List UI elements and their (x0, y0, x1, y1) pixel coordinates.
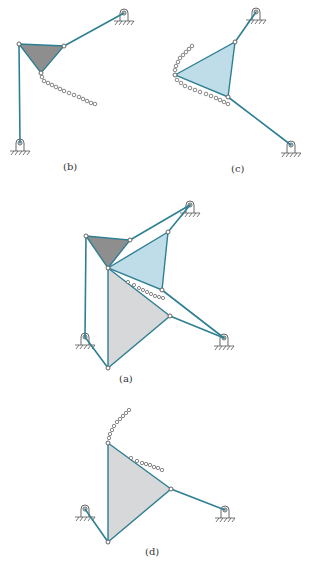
ground-support-icon (281, 141, 301, 157)
coupler-triangle-dark (19, 44, 64, 73)
ground-support-icon (214, 334, 234, 350)
panel-c (173, 8, 301, 157)
coupler-triangle-blue (175, 42, 235, 97)
link (85, 236, 86, 337)
panel-label-c: (c) (231, 163, 244, 174)
panel-label-b: (b) (63, 161, 77, 172)
panel-a (75, 201, 234, 370)
link (228, 97, 291, 145)
link (19, 44, 20, 143)
link (85, 509, 108, 542)
panel-label-a: (a) (119, 373, 133, 384)
panel-d (75, 408, 235, 544)
coupler-curve (40, 75, 97, 106)
link (170, 316, 224, 338)
link (171, 489, 225, 510)
link (64, 13, 124, 46)
link (130, 205, 190, 240)
linkage-diagram (0, 0, 313, 565)
panel-label-d: (d) (145, 546, 159, 557)
link (235, 12, 256, 42)
link (168, 205, 190, 232)
panel-b (10, 9, 134, 155)
coupler-triangle-gray (108, 443, 171, 542)
link (85, 337, 108, 368)
ground-support-icon (215, 506, 235, 522)
